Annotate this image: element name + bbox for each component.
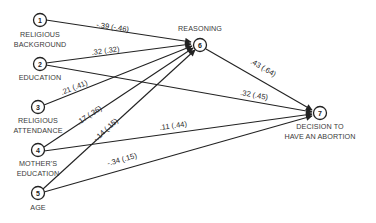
edge-label-2-6: .32 (.32): [91, 44, 120, 57]
node-1: 1: [34, 14, 47, 27]
node-label-3-line1: RELIGIOUS: [0, 116, 78, 126]
edge-label-4-7: .11 (.44): [159, 119, 188, 132]
node-6: 6: [194, 39, 207, 52]
node-3: 3: [32, 101, 45, 114]
node-label-1-line1: RELIGIOUS: [0, 30, 80, 40]
edge-label-4-6: .17 (.36): [75, 103, 104, 126]
svg-text:7: 7: [318, 110, 322, 117]
node-7: 7: [314, 107, 327, 120]
edge-6-7: [206, 49, 312, 110]
node-label-3: RELIGIOUS ATTENDANCE: [0, 116, 78, 136]
node-label-3-line2: ATTENDANCE: [0, 126, 78, 136]
node-label-5: AGE: [0, 203, 78, 213]
node-label-2-line1: EDUCATION: [0, 73, 80, 83]
node-label-7: DECISION TO HAVE AN ABORTION: [270, 122, 370, 142]
node-label-4-line1: MOTHER'S: [0, 159, 78, 169]
node-label-5-line1: AGE: [0, 203, 78, 213]
edge-label-5-6: -.14 (.15): [91, 116, 120, 144]
svg-text:3: 3: [36, 104, 40, 111]
node-4: 4: [32, 144, 45, 157]
node-label-1: RELIGIOUS BACKGROUND: [0, 30, 80, 50]
edge-label-5-7: -.34 (.15): [106, 151, 138, 168]
node-label-2: EDUCATION: [0, 73, 80, 83]
node-label-7-line2: HAVE AN ABORTION: [270, 132, 370, 142]
node-2: 2: [34, 58, 47, 71]
node-5: 5: [32, 187, 45, 200]
node-label-1-line2: BACKGROUND: [0, 40, 80, 50]
svg-text:5: 5: [36, 190, 40, 197]
node-label-4-line2: EDUCATION: [0, 169, 78, 179]
svg-text:6: 6: [198, 42, 202, 49]
node-label-6: REASONING: [160, 24, 240, 34]
svg-text:1: 1: [38, 17, 42, 24]
svg-text:4: 4: [36, 147, 40, 154]
svg-text:2: 2: [38, 61, 42, 68]
node-label-7-line1: DECISION TO: [270, 122, 370, 132]
node-label-4: MOTHER'S EDUCATION: [0, 159, 78, 179]
edge-label-1-6: -.39 (-.46): [96, 20, 130, 34]
node-label-6-line1: REASONING: [160, 24, 240, 34]
